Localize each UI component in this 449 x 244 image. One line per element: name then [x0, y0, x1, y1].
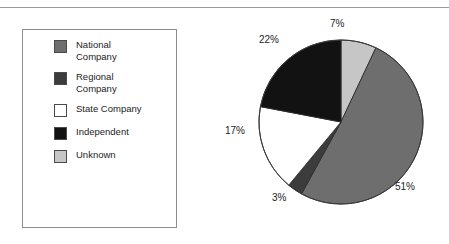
legend-label-national-company: National Company [76, 39, 117, 62]
legend-item-regional-company: Regional Company [54, 71, 176, 94]
legend-list: National Company Regional Company State … [54, 39, 176, 163]
pie-value-label-unknown: 7% [330, 18, 344, 29]
legend-item-unknown: Unknown [54, 149, 176, 163]
pie-value-label-independent: 22% [259, 34, 279, 45]
chart-page: National Company Regional Company State … [0, 0, 449, 244]
pie-value-label-regional: 3% [272, 192, 286, 203]
legend-swatch-unknown [54, 150, 67, 163]
legend-label-unknown: Unknown [76, 149, 116, 161]
legend-swatch-national-company [54, 40, 67, 53]
legend-swatch-regional-company [54, 72, 67, 85]
legend-item-national-company: National Company [54, 39, 176, 62]
legend-label-state-company: State Company [76, 103, 141, 115]
legend-item-independent: Independent [54, 126, 176, 140]
legend-item-state-company: State Company [54, 103, 176, 117]
legend-swatch-state-company [54, 104, 67, 117]
legend-label-regional-company: Regional Company [76, 71, 117, 94]
pie-chart: 7% 22% 17% 3% 51% [225, 0, 449, 244]
pie-slice-group [259, 40, 423, 204]
legend-swatch-independent [54, 127, 67, 140]
legend-panel: National Company Regional Company State … [22, 29, 177, 228]
legend-label-independent: Independent [76, 126, 129, 138]
pie-value-label-state: 17% [225, 125, 245, 136]
pie-value-label-national: 51% [395, 181, 415, 192]
